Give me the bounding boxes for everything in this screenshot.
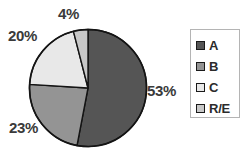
- legend-swatch-c: [196, 83, 205, 92]
- pie-chart-figure: 4% 20% 23% 53% A B C R/E: [0, 0, 248, 157]
- legend-item-a[interactable]: A: [196, 35, 239, 55]
- legend-swatch-a: [196, 41, 205, 50]
- legend-label-c: C: [209, 81, 218, 94]
- legend-item-re[interactable]: R/E: [196, 98, 239, 118]
- legend-label-b: B: [209, 60, 218, 73]
- pie-slice-b[interactable]: [30, 84, 88, 145]
- pie-slice-group: [30, 29, 147, 146]
- chart-legend: A B C R/E: [190, 29, 240, 118]
- legend-label-re: R/E: [209, 102, 230, 115]
- slice-label-b: 23%: [9, 120, 38, 135]
- pie-chart-plot: [28, 28, 148, 148]
- slice-label-re: 4%: [58, 6, 79, 21]
- legend-item-c[interactable]: C: [196, 77, 239, 97]
- legend-item-b[interactable]: B: [196, 56, 239, 76]
- legend-label-a: A: [209, 39, 218, 52]
- slice-label-c: 20%: [8, 28, 37, 43]
- pie-svg: [28, 28, 148, 148]
- legend-swatch-re: [196, 104, 205, 113]
- slice-label-a: 53%: [147, 83, 176, 98]
- legend-swatch-b: [196, 62, 205, 71]
